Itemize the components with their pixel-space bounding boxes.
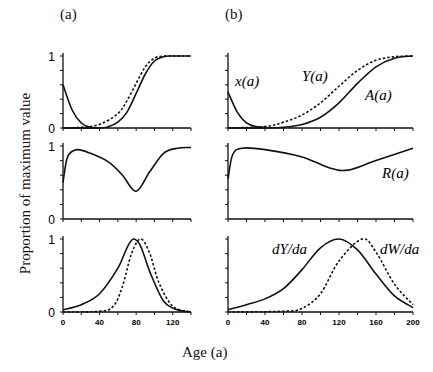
svg-text:80: 80 [298, 318, 307, 327]
svg-text:A(a): A(a) [364, 87, 392, 104]
panel-a-label: (a) [60, 6, 77, 23]
svg-text:dY/da: dY/da [272, 241, 307, 257]
svg-text:0: 0 [48, 122, 55, 136]
svg-text:120: 120 [332, 318, 346, 327]
svg-text:1: 1 [48, 50, 55, 64]
y-axis-label: Proportion of maximum value [17, 89, 34, 279]
svg-text:0: 0 [48, 306, 55, 320]
svg-text:0: 0 [48, 213, 55, 227]
svg-text:40: 40 [95, 318, 104, 327]
svg-text:R(a): R(a) [381, 165, 409, 182]
svg-text:dW/da: dW/da [380, 241, 419, 257]
svg-text:1: 1 [48, 140, 55, 154]
panel-b-label: (b) [225, 6, 243, 23]
svg-text:80: 80 [132, 318, 141, 327]
svg-text:0: 0 [61, 318, 66, 327]
svg-text:160: 160 [369, 318, 383, 327]
plot-area: 01010104080120x(a)Y(a)A(a)R(a)0408012016… [0, 0, 433, 372]
svg-text:120: 120 [166, 318, 180, 327]
svg-text:Y(a): Y(a) [302, 68, 328, 85]
svg-text:x(a): x(a) [234, 73, 259, 90]
svg-text:40: 40 [261, 318, 270, 327]
x-axis-label: Age (a) [182, 344, 227, 361]
svg-text:0: 0 [226, 318, 231, 327]
svg-text:200: 200 [406, 318, 420, 327]
svg-text:1: 1 [48, 233, 55, 247]
figure: 01010104080120x(a)Y(a)A(a)R(a)0408012016… [0, 0, 433, 372]
